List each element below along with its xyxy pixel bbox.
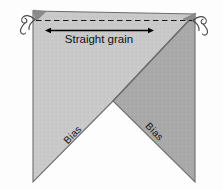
fabric-diagram-svg: Straight grain Bias Bias: [0, 0, 223, 189]
straight-grain-label: Straight grain: [65, 33, 133, 45]
fabric-grain-diagram: Straight grain Bias Bias: [0, 0, 223, 189]
